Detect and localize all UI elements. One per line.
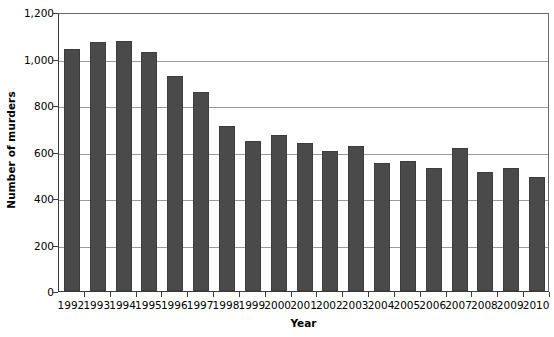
y-axis-tick-mark <box>53 246 58 247</box>
bars-layer <box>59 14 548 291</box>
x-axis-tick-labels: 1992199319941995199619971998199920002001… <box>58 299 549 313</box>
y-axis-tick-mark <box>53 106 58 107</box>
x-axis-tick-mark <box>394 292 395 297</box>
x-axis-tick-label: 2001 <box>290 299 317 311</box>
x-axis-tick-mark <box>471 292 472 297</box>
bar <box>503 168 519 291</box>
x-axis-tick-mark <box>239 292 240 297</box>
y-axis-tick-label: 800 <box>18 101 54 112</box>
x-axis-title: Year <box>58 317 549 329</box>
x-axis-tick-mark <box>420 292 421 297</box>
bar <box>452 148 468 291</box>
x-axis-tick-mark <box>342 292 343 297</box>
x-axis-tick-marks <box>58 292 549 297</box>
bar <box>374 163 390 291</box>
bar <box>400 161 416 291</box>
bar <box>348 146 364 291</box>
x-axis-tick-label: 2004 <box>368 299 395 311</box>
x-axis-tick-label: 2010 <box>523 299 550 311</box>
y-axis-tick-label: 400 <box>18 194 54 205</box>
x-axis-tick-label: 1999 <box>238 299 265 311</box>
y-axis-tick-label: 0 <box>18 287 54 298</box>
x-axis-tick-label: 1992 <box>58 299 85 311</box>
bar <box>426 168 442 291</box>
x-axis-tick-label: 2002 <box>316 299 343 311</box>
x-axis-tick-mark <box>265 292 266 297</box>
x-axis-tick-label: 2000 <box>264 299 291 311</box>
x-axis-tick-label: 1996 <box>161 299 188 311</box>
x-axis-tick-mark <box>523 292 524 297</box>
bar <box>141 52 157 291</box>
x-axis-tick-mark <box>446 292 447 297</box>
x-axis-tick-mark <box>187 292 188 297</box>
bar <box>477 172 493 292</box>
y-axis-tick-mark <box>53 13 58 14</box>
x-axis-tick-label: 2008 <box>471 299 498 311</box>
bar <box>219 126 235 291</box>
bar <box>167 76 183 291</box>
x-axis-tick-mark <box>368 292 369 297</box>
bar <box>193 92 209 291</box>
bar <box>297 143 313 291</box>
x-axis-tick-label: 1998 <box>213 299 240 311</box>
x-axis-tick-label: 2003 <box>342 299 369 311</box>
x-axis-tick-mark <box>291 292 292 297</box>
y-axis-tick-mark <box>53 60 58 61</box>
y-axis-tick-label: 1,000 <box>18 54 54 65</box>
y-axis-tick-mark <box>53 199 58 200</box>
x-axis-tick-label: 1995 <box>135 299 162 311</box>
x-axis-tick-mark <box>316 292 317 297</box>
bar <box>64 49 80 291</box>
y-axis-tick-labels: 02004006008001,0001,200 <box>18 0 54 337</box>
x-axis-tick-mark <box>161 292 162 297</box>
y-axis-tick-label: 200 <box>18 240 54 251</box>
x-axis-tick-mark <box>136 292 137 297</box>
x-axis-tick-mark <box>549 292 550 297</box>
x-axis-tick-label: 2006 <box>419 299 446 311</box>
x-axis-tick-label: 1994 <box>109 299 136 311</box>
x-axis-tick-label: 2009 <box>497 299 524 311</box>
x-axis-tick-mark <box>213 292 214 297</box>
y-axis-tick-label: 1,200 <box>18 8 54 19</box>
bar <box>245 141 261 291</box>
x-axis-tick-label: 1997 <box>187 299 214 311</box>
bar <box>322 151 338 291</box>
y-axis-tick-label: 600 <box>18 147 54 158</box>
y-axis-tick-mark <box>53 153 58 154</box>
plot-area <box>58 13 549 292</box>
x-axis-tick-mark <box>110 292 111 297</box>
x-axis-tick-label: 2007 <box>445 299 472 311</box>
bar <box>529 177 545 291</box>
x-axis-tick-mark <box>84 292 85 297</box>
x-axis-tick-label: 2005 <box>393 299 420 311</box>
bar <box>271 135 287 291</box>
y-axis-title-text: Number of murders <box>5 91 17 208</box>
bar-chart: Number of murders 02004006008001,0001,20… <box>0 0 554 337</box>
bar <box>116 41 132 291</box>
x-axis-tick-label: 1993 <box>83 299 110 311</box>
y-axis-tick-mark <box>53 292 58 293</box>
bar <box>90 42 106 291</box>
x-axis-tick-mark <box>497 292 498 297</box>
